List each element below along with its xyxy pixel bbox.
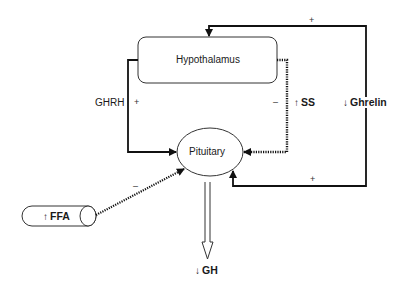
ghrh-label: GHRH: [95, 98, 124, 108]
ghrelin-top-sign: +: [309, 16, 314, 25]
increase-arrow-icon: ↑: [294, 97, 299, 108]
ghrelin-label: ↓Ghrelin: [343, 97, 387, 108]
decrease-arrow-icon: ↓: [343, 97, 348, 108]
ffa-sign: –: [133, 182, 138, 191]
somatostatin-sign: –: [273, 98, 278, 107]
ghrelin-bottom-sign: +: [310, 175, 315, 184]
increase-arrow-icon: ↑: [43, 211, 48, 222]
gh-label: ↓GH: [195, 265, 218, 276]
ghrh-sign: +: [134, 98, 139, 107]
hypothalamus-label: Hypothalamus: [176, 55, 240, 65]
ffa-label: ↑FFA: [43, 211, 70, 222]
ghrelin-to-pituitary-arrow: [233, 100, 366, 186]
gh-output-arrow: [202, 182, 213, 259]
pituitary-label: Pituitary: [189, 147, 225, 157]
diagram-canvas: [0, 0, 400, 285]
decrease-arrow-icon: ↓: [195, 265, 200, 276]
ffa-to-pituitary-arrow: [96, 169, 184, 215]
somatostatin-label: ↑SS: [294, 97, 315, 108]
